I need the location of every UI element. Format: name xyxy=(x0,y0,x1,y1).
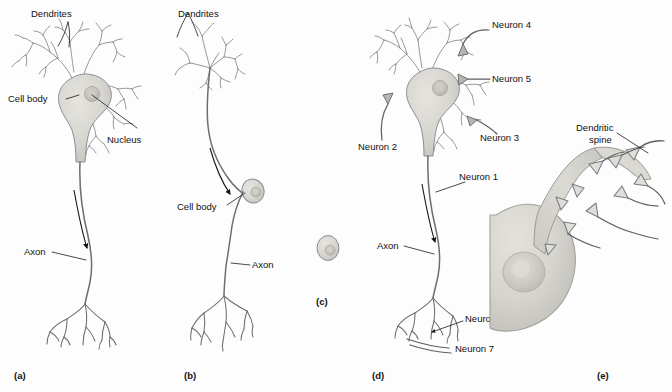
axon-label-d: Axon xyxy=(377,240,399,251)
neuron-structure-figure: Dendrites Cell body Nucleus Axon (a) xyxy=(0,0,672,392)
axon-label-a: Axon xyxy=(24,246,46,257)
neuron-7-label: Neuron 7 xyxy=(455,343,494,354)
neuron-1-label: Neuron 1 xyxy=(459,171,498,182)
dendritic-spine-label-line2: spine xyxy=(589,134,612,145)
axon-label-b: Axon xyxy=(252,259,274,270)
panel-label-b: (b) xyxy=(184,370,196,381)
panel-label-a: (a) xyxy=(14,370,26,381)
panel-label-e: (e) xyxy=(597,370,609,381)
nucleolus-d xyxy=(437,85,443,91)
panel-label-c: (c) xyxy=(316,296,328,307)
nucleolus-c xyxy=(328,248,332,252)
nucleolus-b xyxy=(254,190,258,194)
dendrites-label-b: Dendrites xyxy=(178,8,219,19)
neuron-2-label: Neuron 2 xyxy=(358,141,397,152)
cell-body-label-a: Cell body xyxy=(8,93,48,104)
cell-body-label-b: Cell body xyxy=(177,201,217,212)
nucleus-label-a: Nucleus xyxy=(107,134,142,145)
dendrites-label-a: Dendrites xyxy=(31,8,72,19)
nucleolus-e xyxy=(512,261,530,278)
neuron-3-label: Neuron 3 xyxy=(480,132,519,143)
panel-label-d: (d) xyxy=(372,370,384,381)
neuron-5-label: Neuron 5 xyxy=(492,73,531,84)
neuron-4-label: Neuron 4 xyxy=(492,19,531,30)
dendritic-spine-label-line1: Dendritic xyxy=(576,122,614,133)
figure-background xyxy=(0,0,672,392)
